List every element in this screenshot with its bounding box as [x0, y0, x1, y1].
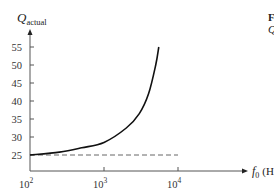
caption-line-2: Q: [268, 23, 274, 35]
y-tick-label: 30: [12, 132, 23, 143]
q-actual-vs-frequency-chart: 25303540455055 102103104 Qactual f0(Hz): [0, 0, 274, 196]
x-tick-label: 104: [167, 176, 182, 190]
cropped-caption-text: F Q: [268, 11, 274, 35]
y-tick-label: 50: [12, 60, 23, 71]
y-tick-label: 45: [12, 78, 23, 89]
q-actual-curve: [30, 47, 159, 155]
x-axis-arrow-icon: [242, 169, 248, 174]
x-tick-label: 103: [93, 176, 108, 190]
y-tick-label: 55: [12, 42, 23, 53]
y-axis-title: Qactual: [17, 10, 47, 27]
y-ticks: 25303540455055: [12, 42, 35, 161]
y-tick-label: 25: [12, 150, 23, 161]
x-axis-title: f0(Hz): [252, 164, 274, 180]
caption-line-1: F: [268, 11, 274, 23]
y-tick-label: 40: [12, 96, 23, 107]
y-tick-label: 35: [12, 114, 23, 125]
x-tick-label: 102: [19, 176, 34, 190]
x-ticks: 102103104: [19, 167, 182, 190]
y-axis-arrow-icon: [28, 29, 33, 35]
